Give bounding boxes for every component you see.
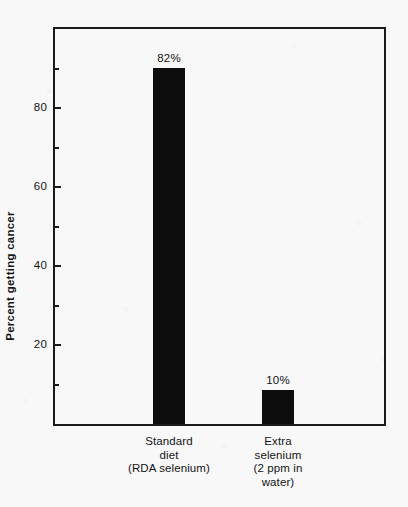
y-tick-major-20 [53, 344, 61, 346]
bar-chart-figure: Percent getting cancer 80 60 40 20 82% 1… [0, 0, 408, 507]
y-tick-minor-30 [53, 305, 59, 307]
bar-value-standard-diet: 82% [134, 52, 204, 64]
y-axis-tick-labels: 80 60 40 20 [0, 0, 47, 507]
bar-extra-selenium [262, 390, 294, 424]
y-tick-label-40: 40 [34, 260, 47, 272]
plot-frame [53, 27, 386, 426]
y-tick-major-40 [53, 265, 61, 267]
category-label-line: (2 ppm in [213, 462, 343, 476]
y-tick-minor-50 [53, 226, 59, 228]
category-label-extra-selenium: Extra selenium (2 ppm in water) [213, 435, 343, 489]
y-tick-major-60 [53, 186, 61, 188]
bar-standard-diet [153, 68, 185, 424]
y-tick-minor-10 [53, 384, 59, 386]
y-axis-tick-marks [53, 0, 65, 507]
y-tick-label-20: 20 [34, 339, 47, 351]
y-tick-minor-70 [53, 147, 59, 149]
y-tick-major-80 [53, 107, 61, 109]
category-label-line: selenium [213, 449, 343, 463]
y-tick-label-60: 60 [34, 181, 47, 193]
category-label-line: water) [213, 476, 343, 490]
bar-value-extra-selenium: 10% [243, 374, 313, 386]
category-label-line: Extra [213, 435, 343, 449]
y-tick-minor-90 [53, 68, 59, 70]
y-tick-label-80: 80 [34, 102, 47, 114]
